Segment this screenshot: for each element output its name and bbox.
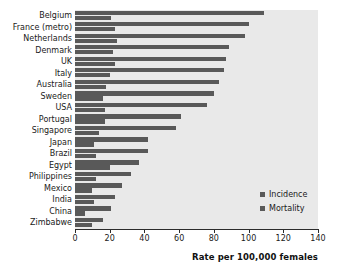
x-tick-label: 0: [72, 234, 77, 243]
bar-incidence: [75, 160, 139, 164]
x-tick-label: 40: [139, 234, 149, 243]
category-label: Zimbabwe: [0, 217, 72, 229]
x-tick-label: 80: [209, 234, 219, 243]
chart-figure: BelgiumFrance (metro)NetherlandsDenmarkU…: [0, 0, 339, 276]
category-label: China: [0, 206, 72, 218]
category-label: Denmark: [0, 45, 72, 57]
x-tick-label: 100: [241, 234, 257, 243]
x-tick-label: 60: [174, 234, 184, 243]
category-label: Portugal: [0, 114, 72, 126]
bar-row: France (metro): [0, 22, 318, 34]
bar-incidence: [75, 57, 226, 61]
bar-mortality: [75, 16, 111, 20]
category-label: Netherlands: [0, 33, 72, 45]
bar-mortality: [75, 96, 103, 100]
bar-mortality: [75, 165, 110, 169]
bar-incidence: [75, 183, 122, 187]
bar-group: [75, 33, 318, 45]
bar-group: [75, 171, 318, 183]
bar-group: [75, 79, 318, 91]
bar-group: [75, 137, 318, 149]
x-tick: [283, 229, 284, 233]
bar-mortality: [75, 39, 117, 43]
bar-mortality: [75, 200, 94, 204]
bar-mortality: [75, 62, 115, 66]
category-label: Italy: [0, 68, 72, 80]
x-tick: [179, 229, 180, 233]
legend-swatch-icon: [260, 206, 265, 211]
category-label: Egypt: [0, 160, 72, 172]
bar-row: Netherlands: [0, 33, 318, 45]
bar-incidence: [75, 11, 264, 15]
bar-mortality: [75, 108, 105, 112]
bar-incidence: [75, 149, 148, 153]
legend-label-incidence: Incidence: [269, 190, 307, 199]
bar-group: [75, 10, 318, 22]
bar-mortality: [75, 85, 106, 89]
bar-incidence: [75, 80, 219, 84]
bar-group: [75, 22, 318, 34]
x-tick: [318, 229, 319, 233]
bar-incidence: [75, 114, 181, 118]
legend-item-mortality: Mortality: [260, 204, 307, 213]
bar-row: Italy: [0, 68, 318, 80]
category-label: Brazil: [0, 148, 72, 160]
bar-incidence: [75, 218, 103, 222]
bar-incidence: [75, 91, 214, 95]
bar-row: USA: [0, 102, 318, 114]
bar-row: Portugal: [0, 114, 318, 126]
bar-group: [75, 160, 318, 172]
x-tick: [110, 229, 111, 233]
category-label: France (metro): [0, 22, 72, 34]
x-tick-label: 120: [275, 234, 291, 243]
category-label: Mexico: [0, 183, 72, 195]
category-label: Singapore: [0, 125, 72, 137]
bar-incidence: [75, 103, 207, 107]
bar-incidence: [75, 195, 115, 199]
bar-incidence: [75, 137, 148, 141]
bar-incidence: [75, 126, 176, 130]
bar-row: Egypt: [0, 160, 318, 172]
bar-mortality: [75, 119, 105, 123]
bar-mortality: [75, 177, 96, 181]
bar-mortality: [75, 142, 94, 146]
x-tick: [144, 229, 145, 233]
bar-group: [75, 68, 318, 80]
bar-group: [75, 91, 318, 103]
bar-incidence: [75, 45, 229, 49]
x-tick: [249, 229, 250, 233]
bar-row: Sweden: [0, 91, 318, 103]
bar-incidence: [75, 172, 131, 176]
bar-incidence: [75, 22, 249, 26]
bar-row: Japan: [0, 137, 318, 149]
bar-mortality: [75, 131, 99, 135]
category-label: USA: [0, 102, 72, 114]
bar-row: UK: [0, 56, 318, 68]
bar-group: [75, 217, 318, 229]
x-tick-label: 20: [105, 234, 115, 243]
category-label: Japan: [0, 137, 72, 149]
bar-mortality: [75, 223, 92, 227]
category-label: Belgium: [0, 10, 72, 22]
category-label: India: [0, 194, 72, 206]
bar-group: [75, 102, 318, 114]
x-tick: [75, 229, 76, 233]
bar-mortality: [75, 154, 96, 158]
category-label: Philippines: [0, 171, 72, 183]
bar-mortality: [75, 211, 85, 215]
bar-incidence: [75, 34, 245, 38]
bar-mortality: [75, 27, 115, 31]
bar-row: Singapore: [0, 125, 318, 137]
bar-row: Brazil: [0, 148, 318, 160]
legend-swatch-icon: [260, 192, 265, 197]
x-axis-line: [75, 229, 318, 230]
x-axis-title: Rate per 100,000 females: [0, 252, 318, 262]
bar-row: Belgium: [0, 10, 318, 22]
bar-incidence: [75, 68, 224, 72]
bar-incidence: [75, 206, 111, 210]
category-label: UK: [0, 56, 72, 68]
bar-mortality: [75, 188, 92, 192]
legend-label-mortality: Mortality: [269, 204, 304, 213]
bar-group: [75, 45, 318, 57]
bar-row: Philippines: [0, 171, 318, 183]
